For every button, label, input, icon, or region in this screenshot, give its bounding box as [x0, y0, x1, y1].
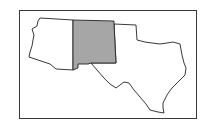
southwest-us-map [0, 0, 213, 130]
state-new-mexico[interactable] [73, 20, 116, 70]
state-arizona[interactable] [29, 18, 73, 70]
